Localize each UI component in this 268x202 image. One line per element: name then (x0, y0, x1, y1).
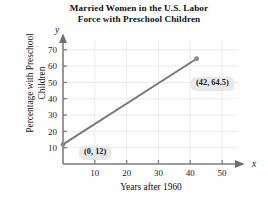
svg-text:40: 40 (48, 94, 58, 104)
svg-text:10: 10 (90, 168, 100, 178)
svg-text:70: 70 (48, 45, 58, 55)
data-point-label-start: (0, 12) (79, 146, 111, 159)
x-axis-variable-label: x (251, 159, 257, 169)
y-axis-variable-label: y (54, 25, 60, 35)
svg-text:50: 50 (218, 168, 228, 178)
svg-text:20: 20 (48, 127, 58, 137)
svg-text:30: 30 (48, 110, 58, 120)
chart-figure: Married Women in the U.S. Labor Force wi… (0, 0, 268, 202)
svg-text:30: 30 (154, 168, 164, 178)
y-axis-ticks: 10203040506070 (48, 45, 67, 153)
svg-text:60: 60 (48, 61, 58, 71)
plot-area: 10203040506070 1020304050 y x (0, 0, 268, 202)
svg-text:20: 20 (122, 168, 132, 178)
svg-text:10: 10 (48, 143, 58, 153)
svg-text:50: 50 (48, 78, 58, 88)
x-axis-ticks: 1020304050 (90, 160, 227, 178)
data-point-label-end: (42, 64.5) (191, 77, 234, 90)
svg-text:40: 40 (186, 168, 196, 178)
